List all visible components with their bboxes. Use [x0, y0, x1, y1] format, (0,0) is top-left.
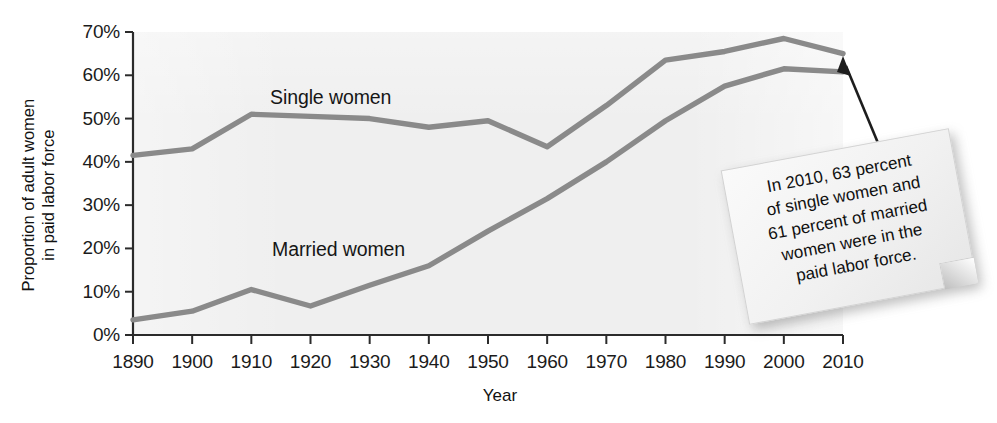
x-tick-label: 2000 — [763, 352, 804, 371]
y-tick-label: 50% — [83, 109, 120, 128]
x-tick-label: 1910 — [231, 352, 272, 371]
y-tick-label: 40% — [83, 152, 120, 171]
x-tick-label: 1930 — [349, 352, 390, 371]
x-tick-label: 1980 — [645, 352, 686, 371]
series-label-single-women: Single women — [270, 86, 391, 109]
y-tick-label: 0% — [93, 325, 120, 344]
x-tick-label: 1970 — [586, 352, 627, 371]
series-line-single-women — [133, 38, 843, 155]
y-tick-label: 30% — [83, 195, 120, 214]
x-axis-title: Year — [440, 386, 560, 406]
y-tick-label: 10% — [83, 282, 120, 301]
y-axis-title-line1: Proportion of adult women — [18, 65, 38, 325]
x-tick-label: 1960 — [526, 352, 567, 371]
x-axis-ticks — [133, 335, 843, 344]
y-tick-label: 60% — [83, 65, 120, 84]
x-tick-label: 1920 — [290, 352, 331, 371]
series-label-married-women: Married women — [272, 238, 405, 261]
chart-figure: 0%10%20%30%40%50%60%70% 1890190019101920… — [0, 0, 997, 423]
x-tick-label: 1940 — [408, 352, 449, 371]
x-tick-label: 1950 — [467, 352, 508, 371]
x-tick-label: 2010 — [822, 352, 863, 371]
y-axis-title-line2: in paid labor force — [38, 65, 58, 325]
x-tick-label: 1990 — [704, 352, 745, 371]
y-tick-label: 70% — [83, 22, 120, 41]
x-tick-label: 1890 — [112, 352, 153, 371]
x-tick-labels: 1890190019101920193019401950196019701980… — [0, 352, 997, 380]
y-tick-label: 20% — [83, 238, 120, 257]
x-tick-label: 1900 — [171, 352, 212, 371]
y-axis-ticks — [125, 32, 133, 335]
y-axis-title: Proportion of adult women in paid labor … — [18, 65, 58, 325]
